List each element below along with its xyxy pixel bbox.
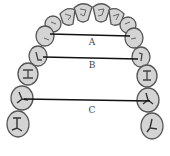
measurement-line-c <box>24 99 150 101</box>
label-b: B <box>89 60 96 70</box>
measurement-labels: A B C <box>88 37 96 115</box>
tooth-second-molar-right <box>137 88 159 112</box>
label-c: C <box>89 105 96 115</box>
measurement-line-b <box>43 57 138 59</box>
tooth-third-molar-right <box>141 113 163 139</box>
tooth-second-premolar-left <box>29 46 47 66</box>
dental-arch-diagram: A B C <box>0 0 170 156</box>
label-a: A <box>88 37 96 47</box>
tooth-lateral-incisor-left <box>60 9 75 26</box>
tooth-first-premolar-right <box>125 28 143 48</box>
measurement-line-a <box>50 34 130 36</box>
tooth-second-molar-left <box>11 86 33 110</box>
tooth-central-incisor-right <box>93 4 110 22</box>
tooth-central-incisor-left <box>74 4 92 22</box>
tooth-first-molar-right <box>137 65 157 87</box>
tooth-first-premolar-left <box>36 26 54 46</box>
tooth-first-molar-left <box>18 63 38 85</box>
teeth <box>7 4 163 139</box>
tooth-second-premolar-right <box>132 47 150 67</box>
tooth-third-molar-left <box>7 111 29 137</box>
